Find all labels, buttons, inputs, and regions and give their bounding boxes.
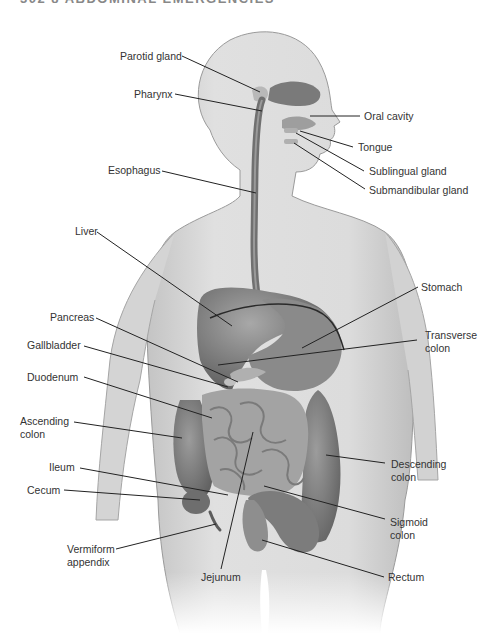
label-sigmoid-colon: Sigmoid colon [390, 516, 428, 542]
label-submandibular-gland: Submandibular gland [369, 184, 468, 197]
label-parotid-gland: Parotid gland [120, 50, 182, 63]
label-oral-cavity: Oral cavity [364, 110, 414, 123]
label-vermiform-appendix: Vermiform appendix [67, 543, 115, 569]
label-esophagus: Esophagus [108, 164, 161, 177]
label-sublingual-gland: Sublingual gland [369, 165, 447, 178]
label-pancreas: Pancreas [50, 311, 94, 324]
submandibular-gland-shape [284, 139, 298, 144]
sublingual-gland-shape [284, 128, 298, 133]
label-transverse-colon: Transverse colon [425, 329, 477, 355]
label-pharynx: Pharynx [134, 88, 173, 101]
label-ileum: Ileum [49, 461, 75, 474]
label-descending-colon: Descending colon [391, 458, 446, 484]
label-duodenum: Duodenum [27, 371, 78, 384]
label-liver: Liver [75, 225, 98, 238]
label-stomach: Stomach [421, 281, 462, 294]
label-ascending-colon: Ascending colon [20, 415, 69, 441]
label-tongue: Tongue [358, 141, 392, 154]
label-jejunum: Jejunum [201, 571, 241, 584]
label-rectum: Rectum [388, 571, 424, 584]
gallbladder-shape [224, 378, 236, 386]
label-gallbladder: Gallbladder [27, 339, 81, 352]
cecum-shape [182, 490, 210, 514]
label-cecum: Cecum [27, 484, 60, 497]
